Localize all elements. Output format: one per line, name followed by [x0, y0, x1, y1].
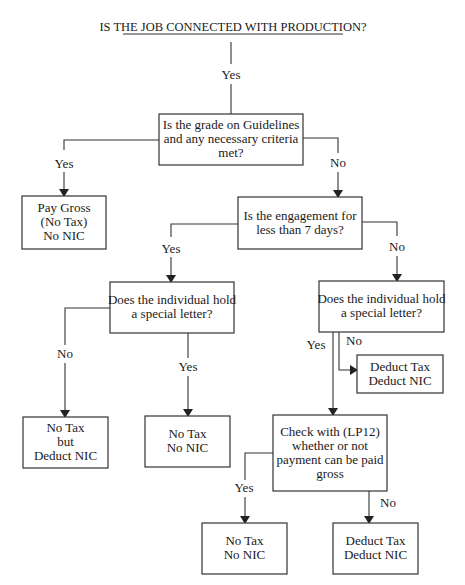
node-deduct-tax-nic-bottom: Deduct TaxDeduct NIC [333, 523, 418, 574]
node-text-line: gross [316, 466, 343, 481]
node-text-line: and any necessary criteria [164, 131, 299, 146]
label-start-yes: Yes [222, 67, 241, 82]
edge-check-yes-top [245, 453, 273, 480]
node-special-letter-left: Does the individual holda special letter… [108, 282, 237, 333]
node-text-line: Deduct NIC [344, 547, 407, 562]
label-check-no: No [380, 495, 396, 510]
svg-text:Deduct TaxDeduct NIC: Deduct TaxDeduct NIC [344, 533, 407, 562]
edge-guidelines-yes-top [64, 140, 159, 150]
edge-engagement-no-top [362, 222, 397, 236]
node-pay-gross: Pay Gross(No Tax)No NIC [22, 196, 106, 249]
flowchart: IS THE JOB CONNECTED WITH PRODUCTION? [0, 0, 465, 585]
node-text-line: Deduct NIC [368, 373, 431, 388]
node-special-letter-right: Does the individual holda special letter… [317, 281, 446, 332]
node-text-line: Does the individual hold [317, 291, 446, 306]
node-text-line: but [57, 434, 74, 449]
label-engagement-yes: Yes [162, 241, 181, 256]
node-text-line: Deduct Tax [346, 533, 406, 548]
node-text-line: payment can be paid [276, 452, 384, 467]
node-text-line: Is the grade on Guidelines [163, 117, 299, 132]
label-letter-left-no: No [57, 346, 73, 361]
node-no-tax-no-nic-mid: No TaxNo NIC [145, 416, 230, 467]
node-text-line: a special letter? [341, 305, 422, 320]
label-engagement-no: No [389, 239, 405, 254]
node-no-tax-but-deduct-nic: No TaxbutDeduct NIC [23, 417, 108, 468]
node-text-line: Deduct NIC [34, 448, 97, 463]
node-text-line: No Tax [225, 533, 264, 548]
edge-letter-left-no-top [65, 308, 110, 345]
label-letter-right-no: No [346, 333, 362, 348]
svg-text:Deduct TaxDeduct NIC: Deduct TaxDeduct NIC [368, 359, 431, 388]
node-text-line: a special letter? [132, 306, 213, 321]
flowchart-title: IS THE JOB CONNECTED WITH PRODUCTION? [99, 20, 367, 34]
label-letter-left-yes: Yes [179, 359, 198, 374]
node-text-line: less than 7 days? [256, 222, 344, 237]
edge-guidelines-no-top [303, 138, 338, 153]
label-guidelines-yes: Yes [55, 156, 74, 171]
node-text-line: No NIC [224, 547, 266, 562]
node-text-line: No NIC [43, 228, 85, 243]
node-text-line: Pay Gross [37, 200, 90, 215]
node-text-line: met? [218, 145, 243, 160]
node-text-line: Check with (LP12) [280, 424, 380, 439]
node-text-line: Deduct Tax [370, 359, 430, 374]
node-text-line: (No Tax) [41, 214, 88, 229]
label-letter-right-yes: Yes [307, 337, 326, 352]
node-text-line: No Tax [46, 420, 85, 435]
label-check-yes: Yes [235, 480, 254, 495]
node-guidelines-question: Is the grade on Guidelinesand any necess… [159, 114, 303, 165]
edge-engagement-yes-top [171, 224, 238, 237]
svg-text:No TaxNo NIC: No TaxNo NIC [167, 426, 209, 455]
node-text-line: whether or not [292, 438, 368, 453]
node-deduct-tax-nic-top: Deduct TaxDeduct NIC [357, 355, 443, 393]
node-text-line: Is the engagement for [244, 208, 358, 223]
svg-text:Pay Gross(No Tax)No NIC: Pay Gross(No Tax)No NIC [37, 200, 90, 243]
svg-text:Is the engagement forless than: Is the engagement forless than 7 days? [244, 208, 358, 237]
node-no-tax-no-nic-bottom: No TaxNo NIC [202, 523, 287, 574]
node-text-line: Does the individual hold [108, 292, 237, 307]
label-guidelines-no: No [330, 155, 346, 170]
node-text-line: No NIC [167, 440, 209, 455]
node-check-lp12: Check with (LP12)whether or notpayment c… [273, 415, 387, 491]
node-text-line: No Tax [168, 426, 207, 441]
svg-text:No TaxNo NIC: No TaxNo NIC [224, 533, 266, 562]
node-engagement-question: Is the engagement forless than 7 days? [238, 197, 362, 249]
